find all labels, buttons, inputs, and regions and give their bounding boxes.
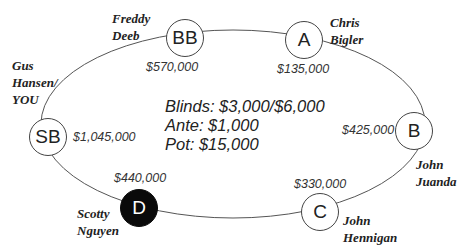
stack-dealer: $440,000 bbox=[114, 171, 166, 185]
player-name-freddy-deeb: Freddy Deeb bbox=[112, 10, 150, 44]
player-name-john-juanda: John Juanda bbox=[416, 156, 456, 190]
seat-bb: BB bbox=[166, 19, 204, 57]
player-name-john-hennigan: John Hennigan bbox=[343, 212, 397, 246]
stack-b: $425,000 bbox=[342, 123, 394, 137]
stack-a: $135,000 bbox=[277, 62, 329, 76]
seat-sb: SB bbox=[29, 118, 67, 156]
seat-c: C bbox=[301, 193, 339, 231]
player-name-scotty-nguyen: Scotty Nguyen bbox=[77, 205, 119, 239]
pot-text: Pot: $15,000 bbox=[165, 135, 325, 154]
seat-a: A bbox=[285, 21, 323, 59]
seat-b: B bbox=[395, 112, 433, 150]
ante-text: Ante: $1,000 bbox=[165, 116, 325, 135]
blinds-text: Blinds: $3,000/$6,000 bbox=[165, 97, 325, 116]
game-info: Blinds: $3,000/$6,000 Ante: $1,000 Pot: … bbox=[165, 97, 325, 154]
player-name-gus-hansen: Gus Hansen/ YOU bbox=[12, 57, 58, 108]
stack-c: $330,000 bbox=[294, 177, 346, 191]
stack-sb: $1,045,000 bbox=[73, 130, 136, 144]
stack-bb: $570,000 bbox=[146, 60, 198, 74]
player-name-chris-bigler: Chris Bigler bbox=[330, 14, 363, 48]
seat-dealer: D bbox=[120, 189, 158, 227]
